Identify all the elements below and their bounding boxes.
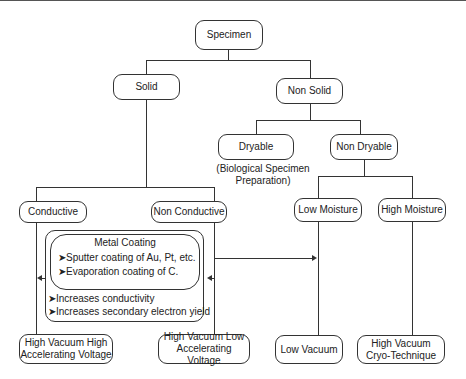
connector [146, 60, 147, 74]
connector [318, 222, 319, 336]
page-top-rule [0, 0, 466, 1]
node-conductive: Conductive [19, 201, 87, 223]
node-high-moisture: High Moisture [378, 198, 446, 222]
connector [214, 258, 312, 259]
coating-method: ➤Sputter coating of Au, Pt, etc. [58, 252, 196, 264]
arrow-right-icon [312, 255, 317, 261]
node-low-moisture: Low Moisture [294, 198, 362, 222]
connector [310, 60, 311, 78]
node-high-vacuum-low-voltage: High Vacuum Low Accelerating Voltage [158, 334, 250, 364]
connector [212, 278, 214, 279]
connector [364, 160, 365, 176]
node-solid: Solid [113, 74, 180, 100]
coating-benefit: ➤Increases secondary electron yield [48, 306, 210, 318]
connector [318, 176, 319, 198]
connector [256, 120, 360, 121]
node-high-vacuum-cryo: High Vacuum Cryo-Technique [357, 335, 445, 364]
coating-benefit: ➤Increases conductivity [48, 293, 154, 305]
connector [256, 120, 257, 134]
connector [36, 187, 37, 201]
node-non-conductive: Non Conductive [151, 201, 227, 223]
coating-method: ➤Evaporation coating of C. [58, 266, 178, 278]
connector [214, 222, 215, 334]
connector [360, 120, 361, 134]
node-non-dryable: Non Dryable [330, 134, 398, 160]
node-dryable: Dryable [218, 134, 294, 160]
node-non-solid: Non Solid [276, 78, 343, 104]
metal-coating-title: Metal Coating [50, 237, 200, 249]
node-low-vacuum: Low Vacuum [275, 335, 343, 364]
connector [36, 187, 214, 188]
node-specimen: Specimen [195, 20, 263, 50]
connector [412, 176, 413, 198]
connector [310, 104, 311, 120]
connector [146, 99, 147, 187]
connector [318, 176, 412, 177]
dryable-note: (Biological Specimen Preparation) [208, 163, 318, 187]
connector [146, 60, 310, 61]
node-high-vacuum-high-voltage: High Vacuum High Accelerating Voltage [19, 334, 113, 364]
connector [214, 187, 215, 201]
connector [412, 222, 413, 336]
